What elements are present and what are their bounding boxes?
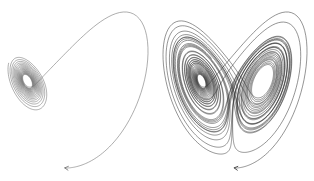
lorenz-attractor-long bbox=[157, 0, 314, 181]
attractor-plot-left bbox=[0, 0, 157, 181]
trajectory-line bbox=[8, 12, 148, 168]
lorenz-attractor-short bbox=[0, 0, 157, 181]
trajectory-line bbox=[163, 12, 307, 168]
start-arrow-icon bbox=[234, 166, 238, 170]
attractor-plot-right bbox=[157, 0, 314, 181]
